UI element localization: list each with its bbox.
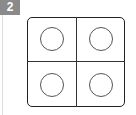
horizontal-divider (27, 61, 125, 62)
left-margin-rule (2, 15, 3, 115)
circle-icon-bottom-right (89, 73, 113, 97)
circle-icon-top-right (89, 27, 113, 51)
circle-icon-bottom-left (40, 73, 64, 97)
vertical-divider (76, 17, 77, 107)
circle-icon-top-left (40, 27, 64, 51)
step-number-badge: 2 (0, 0, 20, 15)
